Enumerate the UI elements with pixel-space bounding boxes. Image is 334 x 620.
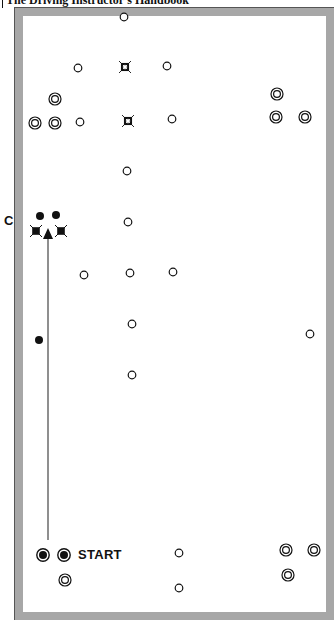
- cone-icon: [168, 115, 176, 123]
- cone-icon: [169, 268, 177, 276]
- double-circle-icon: [308, 544, 320, 556]
- double-circle-icon: [49, 93, 61, 105]
- cone-icon: [306, 330, 314, 338]
- double-circle-markers: [29, 88, 320, 586]
- filled-cross-icon: [30, 225, 42, 237]
- position-label-c: C: [4, 213, 13, 228]
- double-circle-icon: [271, 88, 283, 100]
- double-circle-icon: [299, 111, 311, 123]
- filled-dot-icon: [35, 336, 43, 344]
- cone-icon: [76, 118, 84, 126]
- start-marker-icon: [37, 549, 49, 561]
- cone-icon: [128, 320, 136, 328]
- open-cross-icon: [122, 115, 134, 127]
- double-circle-icon: [59, 574, 71, 586]
- cone-icon: [175, 584, 183, 592]
- filled-cross-icon: [55, 225, 67, 237]
- start-label: START: [78, 547, 122, 562]
- open-cross-icon: [119, 61, 131, 73]
- double-circle-icon: [49, 117, 61, 129]
- cone-icon: [80, 271, 88, 279]
- filled-dot-icon: [36, 212, 44, 220]
- double-circle-icon: [280, 544, 292, 556]
- cone-icon: [120, 13, 128, 21]
- cone-icon: [128, 371, 136, 379]
- double-circle-icon: [270, 111, 282, 123]
- cone-icon: [175, 549, 183, 557]
- cone-icon: [74, 64, 82, 72]
- double-circle-icon: [282, 569, 294, 581]
- cone-icon: [163, 62, 171, 70]
- double-circle-icon: [29, 117, 41, 129]
- cone-icon: [123, 167, 131, 175]
- cone-icon: [124, 218, 132, 226]
- cone-icon: [126, 269, 134, 277]
- start-position-markers: [37, 549, 70, 561]
- direction-arrow-icon: [43, 228, 53, 540]
- filled-dot-icon: [52, 211, 60, 219]
- start-marker-icon: [58, 549, 70, 561]
- open-cross-markers: [119, 61, 134, 127]
